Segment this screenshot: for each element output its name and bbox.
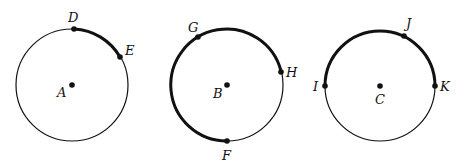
label-g: G	[188, 20, 198, 35]
label-e: E	[124, 43, 135, 58]
center-c	[377, 83, 383, 89]
point-d	[71, 26, 77, 32]
circles-diagram: D E A G H F B I J K C	[0, 0, 460, 167]
arc-de-bold	[74, 29, 120, 57]
center-a	[69, 82, 75, 88]
label-k: K	[439, 79, 451, 94]
point-i	[322, 83, 328, 89]
label-j: J	[403, 16, 412, 31]
label-b: B	[212, 86, 223, 101]
point-f	[224, 138, 230, 144]
point-h	[278, 69, 284, 75]
label-h: H	[285, 65, 298, 80]
label-a: A	[56, 85, 66, 100]
circle-b-group: G H F B	[171, 20, 298, 163]
circle-c-group: I J K C	[312, 16, 451, 141]
point-g	[195, 34, 201, 40]
arc-ijk-bold	[325, 31, 435, 86]
label-c: C	[375, 92, 385, 107]
point-j	[401, 33, 407, 39]
circle-a-group: D E A	[16, 10, 135, 141]
center-b	[224, 82, 230, 88]
label-d: D	[67, 10, 79, 25]
label-f: F	[221, 148, 232, 163]
point-k	[432, 83, 438, 89]
point-e	[117, 54, 123, 60]
label-i: I	[312, 79, 319, 94]
